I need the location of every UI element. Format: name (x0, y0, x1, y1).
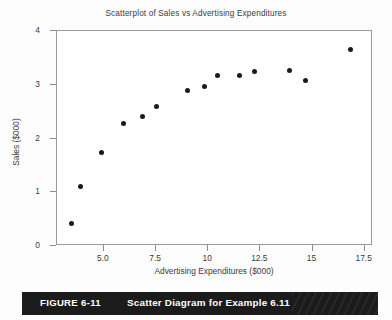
figure-caption-label: Scatter Diagram for Example 6.11 (127, 297, 290, 308)
scatter-point (121, 121, 126, 126)
scatter-point (99, 150, 104, 155)
scatter-point (154, 104, 159, 109)
scatter-point (78, 184, 83, 189)
chart-title: Scatterplot of Sales vs Advertising Expe… (0, 9, 392, 18)
figure-container: Scatterplot of Sales vs Advertising Expe… (0, 0, 392, 320)
scatter-point (287, 68, 292, 73)
y-tick-label: 4 (0, 25, 40, 35)
x-tick-label: 17.5 (344, 253, 384, 263)
x-tick-label: 12.5 (239, 253, 279, 263)
plot-area (56, 30, 372, 245)
scatter-point (303, 78, 308, 83)
scatter-point (237, 73, 242, 78)
scatter-point (69, 221, 74, 226)
figure-number-label: FIGURE 6-11 (40, 297, 101, 308)
figure-caption-bar: FIGURE 6-11 Scatter Diagram for Example … (22, 292, 378, 315)
y-tick-label: 0 (0, 240, 40, 250)
x-tick-mark (312, 245, 313, 251)
scatter-point (215, 73, 220, 78)
scatter-point (140, 114, 145, 119)
x-tick-label: 10 (187, 253, 227, 263)
scatter-point (185, 88, 190, 93)
x-axis-title: Advertising Expenditures ($000) (56, 266, 372, 276)
x-tick-mark (155, 245, 156, 251)
x-tick-mark (364, 245, 365, 251)
x-tick-mark (103, 245, 104, 251)
x-tick-label: 15 (292, 253, 332, 263)
x-tick-label: 5.0 (83, 253, 123, 263)
y-axis-title: Sales ($000) (11, 87, 21, 197)
scatter-points-layer (57, 31, 371, 244)
x-tick-label: 7.5 (135, 253, 175, 263)
scatter-point (252, 69, 257, 74)
y-tick-mark (50, 245, 56, 246)
x-tick-mark (207, 245, 208, 251)
scatter-point (202, 84, 207, 89)
x-tick-mark (259, 245, 260, 251)
scatter-point (348, 47, 353, 52)
